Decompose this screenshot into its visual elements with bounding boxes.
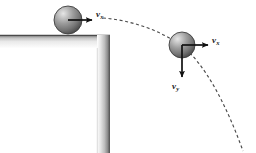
table-surface xyxy=(0,35,110,49)
label-vx-in-flight: vx xyxy=(212,36,219,45)
table-leg xyxy=(97,35,110,153)
label-vx-in-flight-subscript: x xyxy=(216,39,219,46)
label-vy-in-flight-subscript: y xyxy=(176,85,179,92)
physics-projectile-diagram: vx vx vy xyxy=(0,0,256,153)
label-vy-in-flight: vy xyxy=(172,82,179,91)
diagram-canvas xyxy=(0,0,256,153)
label-vx-on-table-subscript: x xyxy=(100,13,103,20)
label-vx-on-table: vx xyxy=(96,10,103,19)
